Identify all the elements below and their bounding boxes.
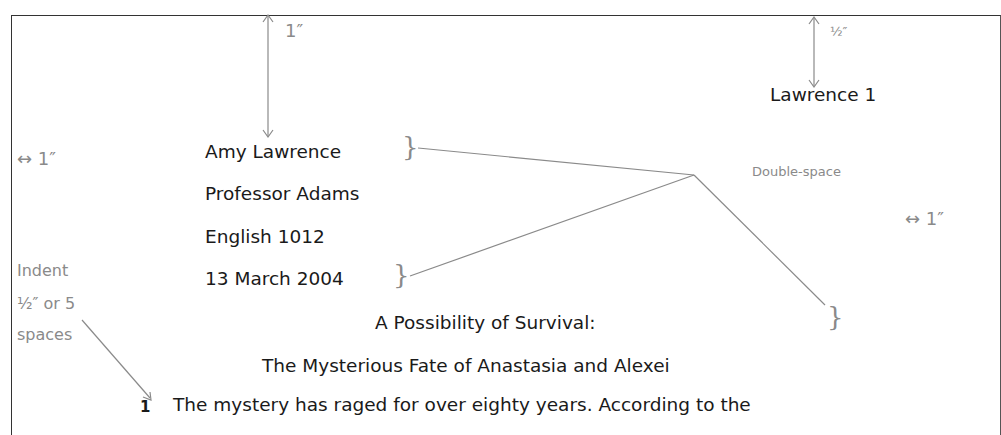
heading-student-name: Amy Lawrence	[205, 141, 341, 162]
heading-instructor: Professor Adams	[205, 183, 359, 204]
double-space-label: Double-space	[752, 164, 841, 179]
header-margin-label: ½″	[830, 24, 847, 39]
brace-title: }	[827, 302, 844, 332]
left-margin-label: ↔ 1″	[17, 148, 56, 169]
top-margin-label: 1″	[285, 20, 303, 41]
heading-course: English 1012	[205, 226, 325, 247]
indent-label-line-2: ½″ or 5	[17, 294, 75, 313]
running-head: Lawrence 1	[770, 84, 876, 105]
brace-date: }	[393, 260, 410, 290]
indent-label-line-3: spaces	[17, 325, 72, 344]
title-line-2: The Mysterious Fate of Anastasia and Ale…	[262, 355, 670, 376]
paragraph-number: 1	[140, 398, 150, 416]
right-margin-label: ↔ 1″	[905, 208, 944, 229]
indent-label-line-1: Indent	[17, 261, 68, 280]
title-line-1: A Possibility of Survival:	[375, 312, 596, 333]
first-paragraph-line: The mystery has raged for over eighty ye…	[173, 394, 751, 415]
brace-top: }	[402, 132, 419, 162]
heading-date: 13 March 2004	[205, 268, 344, 289]
